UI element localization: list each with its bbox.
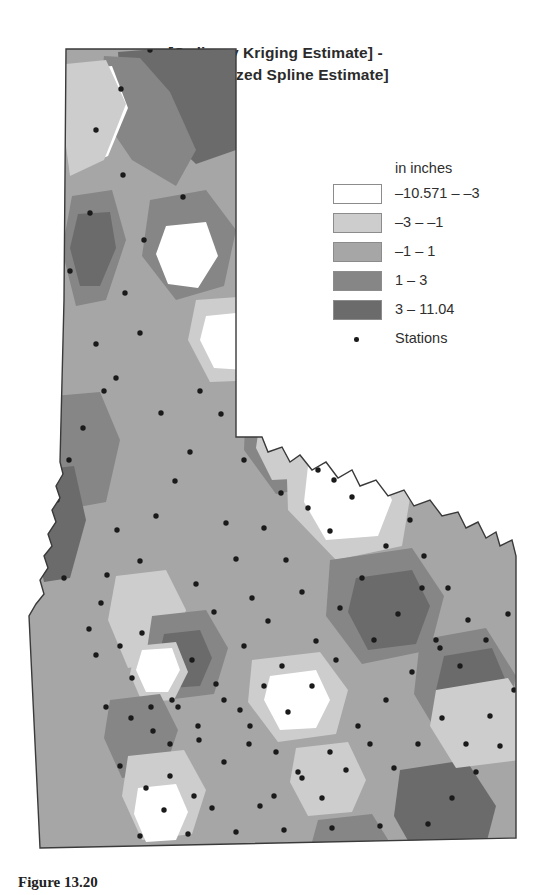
station-point [278,490,283,495]
legend-label-class-4: 3 – 11.04 [395,301,454,317]
station-point [197,388,202,393]
station-point [329,825,334,830]
station-point [167,773,172,778]
station-point [285,709,290,714]
station-point [196,737,201,742]
station-point [465,617,470,622]
station-point [137,833,142,838]
station-point [309,683,314,688]
station-point [270,440,275,445]
station-point [143,785,148,790]
station-point [193,581,198,586]
station-point [180,194,185,199]
station-point [425,821,430,826]
station-point [319,795,324,800]
station-point [377,823,382,828]
station-point [449,795,454,800]
station-point [367,741,372,746]
station-point [349,494,354,499]
station-point [343,767,348,772]
station-point [331,477,336,482]
station-point [153,513,158,518]
station-point [261,525,266,530]
station-point [327,749,332,754]
station-point [98,600,103,605]
legend-title: in inches [395,160,452,176]
station-point [195,723,200,728]
station-point [41,545,46,550]
station-point [419,585,424,590]
legend-swatch-class-0 [333,184,382,204]
station-point [333,657,338,662]
station-point [175,704,180,709]
station-point [189,657,194,662]
station-point [247,723,252,728]
legend-label-class-2: –1 – 1 [395,243,435,259]
station-point [167,741,172,746]
station-point [211,609,216,614]
station-point [359,575,364,580]
station-point [161,807,166,812]
station-point [371,465,376,470]
station-point [265,618,270,623]
station-point [169,697,174,702]
station-point [483,637,488,642]
station-point [241,457,246,462]
station-point [118,86,123,91]
station-point [233,556,238,561]
legend-swatch-class-1 [333,213,382,233]
legend-swatch-class-4 [333,300,382,320]
station-point [357,449,362,454]
figure-panel: [Ordinary Kriging Estimate] - [Regulariz… [0,0,555,895]
station-point [113,375,118,380]
station-point [337,605,342,610]
station-point [295,769,300,774]
station-point [61,575,66,580]
station-point [223,520,228,525]
station-point [237,707,242,712]
station-point [371,637,376,642]
station-point [355,723,360,728]
station-point [191,793,196,798]
station-point [148,704,153,709]
station-point [261,683,266,688]
station-point [407,517,412,522]
station-point [93,652,98,657]
station-point [137,330,142,335]
station-point [445,585,450,590]
station-point [120,172,125,177]
station-point [305,505,310,510]
station-point [395,611,400,616]
station-point [150,728,155,733]
station-point [233,829,238,834]
legend-swatch-class-3 [333,271,382,291]
station-point [158,410,163,415]
station-point [122,290,127,295]
legend-label-class-0: –10.571 – –3 [395,185,480,201]
station-point [103,704,108,709]
station-point [433,637,438,642]
station-point [249,595,254,600]
station-point [101,388,106,393]
station-point [129,675,134,680]
station-point [313,638,318,643]
station-point [137,558,142,563]
station-point [383,543,388,548]
station-point [409,669,414,674]
station-point [421,553,426,558]
station-point [439,715,444,720]
legend-label-class-3: 1 – 3 [395,272,427,288]
station-point [299,589,304,594]
station-point [283,401,288,406]
station-point [497,743,502,748]
station-point [505,611,510,616]
station-point [67,268,72,273]
map-canvas [0,0,555,870]
station-point [221,697,226,702]
station-point [139,630,144,635]
station-point [147,47,152,52]
station-point [273,749,278,754]
station-point [457,663,462,668]
station-point [93,127,98,132]
station-point [221,759,226,764]
